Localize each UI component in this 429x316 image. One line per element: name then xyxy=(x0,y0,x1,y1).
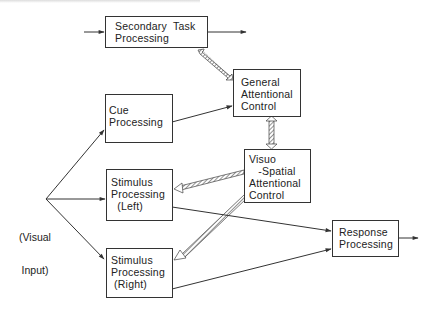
node-label-line: Response xyxy=(339,226,392,238)
node-label-line: Stimulus xyxy=(111,176,168,188)
hatched-arrow-visuospatial-to-right xyxy=(174,195,247,260)
hatched-arrow-secondary-general xyxy=(198,49,233,80)
node-label-line: Attentional xyxy=(249,177,306,189)
node-label-line: (Right) xyxy=(111,278,168,290)
hatched-arrow-general-visuospatial xyxy=(266,116,277,149)
node-label-line: General xyxy=(241,76,293,88)
node-stimulus-processing-left: Stimulus Processing (Left) xyxy=(106,169,173,221)
node-label-line: Visuo xyxy=(249,153,306,165)
arrow-input-to-right xyxy=(46,199,104,259)
node-label-line: Control xyxy=(241,100,293,112)
node-label-line: -Spatial xyxy=(249,165,306,177)
node-label-line: Processing xyxy=(111,266,168,278)
node-secondary-task-processing: Secondary Task Processing xyxy=(105,16,208,48)
arrow-left-to-response xyxy=(172,207,331,231)
node-general-attentional-control: General Attentional Control xyxy=(233,69,301,117)
node-label-line: Processing xyxy=(115,32,198,44)
node-response-processing: Response Processing xyxy=(332,220,399,257)
node-label-line: Processing xyxy=(109,116,169,128)
node-label-line: Attentional xyxy=(241,88,293,100)
node-label-line: Control xyxy=(249,189,306,201)
input-label-line: (Visual xyxy=(16,232,54,243)
node-label-line: Processing xyxy=(111,188,168,200)
node-label-line: Stimulus xyxy=(111,254,168,266)
node-label-line: (Left) xyxy=(111,200,168,212)
arrow-input-to-cue xyxy=(46,130,104,199)
arrow-cue-to-general xyxy=(172,106,232,122)
node-stimulus-processing-right: Stimulus Processing (Right) xyxy=(106,248,173,298)
arrow-right-to-response xyxy=(172,249,331,289)
hatched-arrow-visuospatial-to-left xyxy=(174,170,244,193)
node-visuo-spatial-attentional-control: Visuo -Spatial Attentional Control xyxy=(244,149,311,203)
input-label-line: Input) xyxy=(16,265,54,276)
node-label-line: Secondary Task xyxy=(115,20,198,32)
node-label-line: Processing xyxy=(339,238,392,250)
visual-input-label: (Visual Input) xyxy=(16,210,54,287)
node-label-line: Cue xyxy=(109,104,169,116)
diagram-canvas xyxy=(0,0,429,316)
node-cue-processing: Cue Processing xyxy=(105,94,173,143)
